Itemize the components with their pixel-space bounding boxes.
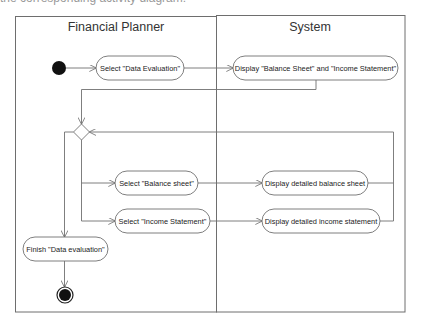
action-label: Finish "Data evaluation" [26,245,105,254]
edge-decision-to-select-income-statement [82,183,116,221]
action-label: Select "Balance sheet" [119,179,194,188]
final-node-dot [59,289,71,301]
decision-node [74,124,90,140]
edge-decision-to-select-balance-sheet [82,140,116,183]
action-select-income-statement: Select "Income Statement" [115,209,210,233]
action-display-overview: Display "Balance Sheet" and "Income Stat… [233,56,398,80]
lane-title-planner: Financial Planner [68,20,165,34]
action-label: Select "Data Evaluation" [100,64,180,73]
action-display-balance-sheet: Display detailed balance sheet [262,171,368,195]
edge-decision-to-finish [65,132,74,237]
final-node [57,287,73,303]
action-label: Display detailed balance sheet [265,179,365,188]
activity-diagram: Financial Planner System Select "Data Ev… [0,0,421,327]
action-label: Select "Income Statement" [119,217,207,226]
action-select-data-evaluation: Select "Data Evaluation" [96,56,184,80]
edge-display-overview-to-decision [82,80,317,124]
action-label: Display "Balance Sheet" and "Income Stat… [235,64,397,73]
action-select-balance-sheet: Select "Balance sheet" [115,171,198,195]
lane-title-system: System [289,20,331,34]
action-finish-data-evaluation: Finish "Data evaluation" [23,237,108,261]
action-label: Display detailed income statement [265,217,378,226]
action-display-income-statement: Display detailed income statement [262,209,380,233]
initial-node [52,61,66,75]
